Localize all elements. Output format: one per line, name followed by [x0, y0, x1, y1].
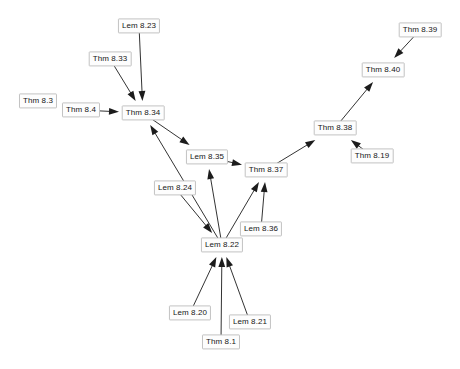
node-thm-8-3: Thm 8.3: [19, 93, 57, 108]
arrowhead-thm-8-4-to-thm-8-34: [109, 108, 119, 115]
node-thm-8-39: Thm 8.39: [399, 22, 442, 37]
node-thm-8-33: Thm 8.33: [89, 51, 132, 66]
arrowhead-lem-8-20-to-lem-8-22: [209, 257, 216, 267]
node-thm-8-4: Thm 8.4: [62, 102, 100, 117]
arrowhead-lem-8-21-to-lem-8-22: [226, 257, 233, 268]
arrowhead-thm-8-1-to-lem-8-22: [218, 257, 225, 267]
node-lem-8-36: Lem 8.36: [240, 221, 282, 236]
node-lem-8-24: Lem 8.24: [154, 180, 196, 195]
arrowhead-lem-8-22-to-lem-8-35: [207, 169, 214, 179]
arrowhead-thm-8-34-to-lem-8-35: [179, 137, 189, 145]
arrowhead-thm-8-37-to-thm-8-38: [305, 140, 315, 148]
node-thm-8-1: Thm 8.1: [202, 334, 240, 349]
arrowhead-lem-8-22-to-thm-8-37: [251, 182, 259, 192]
node-lem-8-35: Lem 8.35: [186, 149, 228, 164]
arrowhead-lem-8-23-to-thm-8-34: [139, 91, 146, 101]
arrowhead-lem-8-35-to-thm-8-37: [232, 159, 242, 166]
arrowhead-thm-8-33-to-thm-8-34: [128, 91, 136, 101]
arrowhead-thm-8-38-to-thm-8-40: [364, 82, 373, 92]
node-thm-8-40: Thm 8.40: [362, 62, 405, 77]
arrowhead-lem-8-22-to-thm-8-34: [150, 125, 158, 135]
arrowhead-lem-8-24-to-lem-8-22: [203, 223, 212, 233]
edge-thm-8-1-to-lem-8-22: [221, 265, 222, 342]
node-lem-8-22: Lem 8.22: [201, 237, 243, 252]
node-thm-8-19: Thm 8.19: [351, 148, 394, 163]
node-lem-8-23: Lem 8.23: [118, 18, 160, 33]
edge-lem-8-23-to-thm-8-34: [139, 26, 142, 93]
node-thm-8-38: Thm 8.38: [314, 120, 357, 135]
node-thm-8-37: Thm 8.37: [245, 162, 288, 177]
node-lem-8-21: Lem 8.21: [229, 314, 271, 329]
edge-lem-8-21-to-lem-8-22: [229, 265, 250, 322]
node-thm-8-34: Thm 8.34: [122, 105, 165, 120]
dependency-graph: Thm 8.3Thm 8.4Lem 8.23Thm 8.33Thm 8.34Le…: [0, 0, 460, 369]
node-lem-8-20: Lem 8.20: [169, 305, 211, 320]
arrowhead-lem-8-36-to-thm-8-37: [261, 182, 268, 192]
